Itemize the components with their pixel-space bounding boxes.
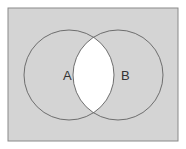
venn-diagram: A B: [0, 0, 186, 149]
set-b-label: B: [121, 68, 130, 83]
set-a-label: A: [63, 68, 72, 83]
